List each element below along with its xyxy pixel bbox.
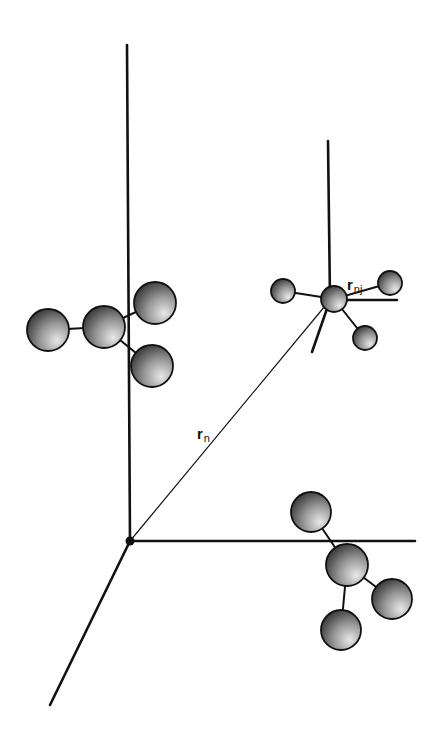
vertical-axis — [127, 45, 130, 541]
diagram-canvas — [0, 0, 440, 741]
molecule-bottom-right — [291, 492, 412, 650]
atom-sphere — [271, 279, 295, 303]
atom-sphere — [326, 544, 368, 586]
atom-sphere — [372, 579, 412, 619]
molecule-local — [271, 271, 402, 350]
molecules — [27, 271, 412, 650]
local-frame — [312, 141, 397, 352]
label-r-nj-main: r — [347, 276, 353, 293]
atom-sphere — [321, 610, 361, 650]
molecule-left — [27, 282, 176, 387]
label-r-nj: rnj — [347, 276, 362, 295]
atom-sphere — [83, 306, 125, 348]
atom-sphere — [27, 309, 69, 351]
local-vertical-axis — [328, 141, 330, 300]
atom-sphere — [291, 492, 331, 532]
atom-sphere — [131, 345, 173, 387]
label-r-nj-sub: nj — [354, 283, 363, 295]
global-frame — [50, 45, 415, 705]
atom-sphere — [321, 286, 347, 312]
atom-sphere — [134, 282, 176, 324]
atom-sphere — [353, 326, 377, 350]
label-r-n-main: r — [197, 425, 203, 442]
atom-sphere — [378, 271, 402, 295]
label-r-n: rn — [197, 425, 210, 444]
diagonal-axis — [50, 541, 130, 705]
label-r-n-sub: n — [204, 432, 210, 444]
